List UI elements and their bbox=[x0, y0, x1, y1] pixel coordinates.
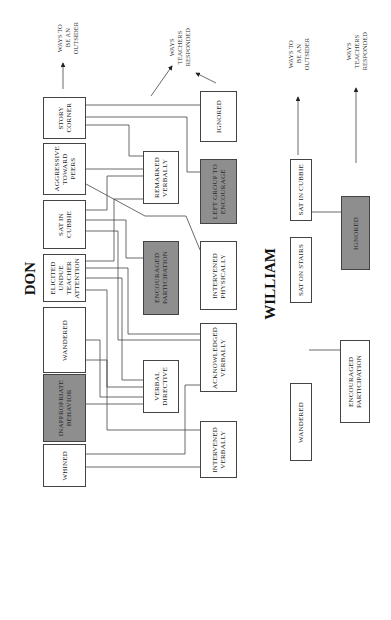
don-response-encouraged-participation: ENCOURAGED PARTICIPATION bbox=[143, 241, 179, 315]
don-caption-outsider: WAYS TO BE AN OUTSIDER bbox=[56, 22, 80, 54]
don-behavior-aggressive: AGGRESSIVE TOWARD PEERS bbox=[43, 143, 86, 195]
william-response-encouraged-participation: ENCOURAGED PARTICIPATION bbox=[340, 340, 370, 423]
william-behavior-sat-in-cubbie: SAT IN CUBBIE bbox=[290, 159, 312, 221]
don-behavior-whined: WHINED bbox=[43, 444, 86, 487]
don-title: DON bbox=[22, 262, 39, 295]
william-title: WILLIAM bbox=[262, 248, 279, 320]
don-response-acknowledged-verbally: ACKNOWLEDGED VERBALLY bbox=[200, 323, 237, 392]
don-response-verbal-directive: VERBAL DIRECTIVE bbox=[143, 360, 179, 413]
don-response-intervened-verbally: INTERVENED VERBALLY bbox=[200, 421, 237, 478]
don-behavior-elicited-attention: ELICITED UNDUE TEACHER ATTENTION bbox=[43, 254, 86, 302]
don-behavior-inappropriate: INAPPROPRIATE BEHAVIOR bbox=[43, 374, 86, 442]
don-behavior-wandered: WANDERED bbox=[43, 307, 86, 373]
william-response-ignored: IGNORED bbox=[341, 196, 370, 270]
don-response-remarked-verbally: REMARKED VERBALLY bbox=[143, 151, 179, 204]
don-caption-teachers: WAYS TEACHERS RESPONDED bbox=[168, 28, 192, 66]
william-behavior-sat-on-stairs: SAT ON STAIRS bbox=[290, 237, 312, 303]
don-behavior-story-corner: STORY CORNER bbox=[43, 97, 86, 139]
don-response-ignored: IGNORED bbox=[200, 91, 237, 142]
don-response-intervened-physically: INTERVENED PHYSICALLY bbox=[200, 241, 237, 310]
don-response-left-group: LEFT GROUP TO ENCOURAGE bbox=[200, 159, 237, 224]
william-caption-outsider: WAYS TO BE AN OUTSIDER bbox=[287, 38, 311, 70]
don-behavior-sat-in-cubbie: SAT IN CUBBIE bbox=[43, 200, 86, 249]
william-behavior-wandered: WANDERED bbox=[290, 383, 312, 461]
william-caption-teachers: WAYS TEACHERS RESPONDED bbox=[345, 32, 369, 70]
